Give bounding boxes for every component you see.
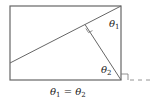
geometry-diagram: θ1 θ2 θ1 = θ2 bbox=[0, 0, 153, 103]
right-angle-marker-corner bbox=[121, 74, 128, 80]
theta2-label: θ2 bbox=[101, 64, 112, 77]
theta1-label: θ1 bbox=[109, 18, 120, 31]
caption-equation: θ1 = θ2 bbox=[50, 86, 86, 99]
